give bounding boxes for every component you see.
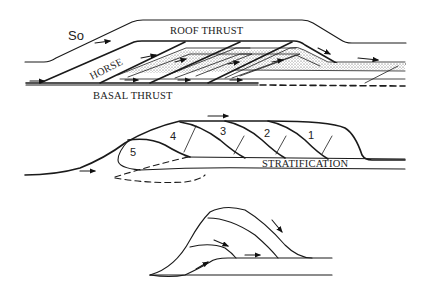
so-label: So — [68, 28, 84, 43]
nappe-outer — [150, 207, 312, 275]
thrust-3 — [225, 121, 285, 158]
basal-thrust-dashed — [260, 85, 405, 86]
thrust-diagram: So ROOF THRUST HORSE BASAL THRUST 4 3 2 … — [0, 0, 425, 295]
nappe-panel — [150, 207, 332, 276]
bed-tick-3 — [234, 136, 244, 154]
arrow-so — [95, 41, 110, 43]
sheet-label-4: 4 — [170, 130, 176, 142]
sheet-label-5: 5 — [130, 146, 136, 158]
sheet-label-1: 1 — [308, 129, 314, 141]
roof-thrust-label: ROOF THRUST — [170, 25, 244, 36]
sheet-label-2: 2 — [264, 127, 270, 139]
duplex-panel: So ROOF THRUST HORSE BASAL THRUST — [25, 20, 406, 101]
dashed-fault-lower — [115, 175, 205, 183]
arrow-nappe-lower — [196, 262, 208, 269]
sheet-5-top — [128, 139, 190, 157]
sheet-label-3: 3 — [220, 125, 226, 137]
nappe-middle — [208, 218, 278, 258]
bed-tick-4 — [184, 126, 196, 152]
stratification-label: STRATIFICATION — [262, 158, 348, 169]
arrow-right-top — [358, 58, 378, 60]
lower-bed-a — [235, 70, 405, 71]
bed-tick-2 — [276, 136, 286, 154]
imbricate-panel: 4 3 2 1 5 STRATIFICATION — [25, 116, 405, 183]
basal-thrust-label: BASAL THRUST — [93, 90, 173, 101]
nappe-lower-base — [150, 258, 332, 277]
bed-tick-1 — [322, 136, 332, 154]
nappe-inner — [190, 245, 236, 258]
arrow-nappe-top — [272, 220, 282, 232]
